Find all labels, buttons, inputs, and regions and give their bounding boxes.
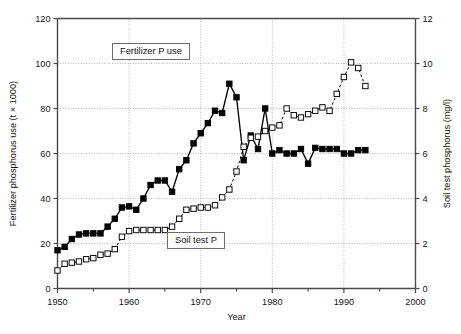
ytick-label-left: 120 <box>35 14 50 24</box>
ytick-label-left: 80 <box>40 104 50 114</box>
ytick-label-left: 40 <box>40 194 50 204</box>
data-point <box>177 216 182 221</box>
data-point <box>98 231 103 236</box>
data-point <box>320 105 325 110</box>
data-point <box>191 206 196 211</box>
ytick-label-right: 6 <box>423 149 428 159</box>
data-point <box>198 205 203 210</box>
data-point <box>83 231 88 236</box>
data-point <box>248 135 253 140</box>
data-point <box>334 146 339 151</box>
data-point <box>169 224 174 229</box>
data-point <box>62 244 67 249</box>
data-point <box>298 146 303 151</box>
data-point <box>105 224 110 229</box>
data-point <box>348 151 353 156</box>
ytick-label-left: 60 <box>40 149 50 159</box>
data-point <box>119 234 124 239</box>
data-point <box>313 108 318 113</box>
data-point <box>291 113 296 118</box>
data-point <box>148 227 153 232</box>
data-point <box>305 111 310 116</box>
data-point <box>291 151 296 156</box>
data-point <box>327 146 332 151</box>
data-point <box>255 134 260 139</box>
data-point <box>277 147 282 152</box>
ytick-label-right: 10 <box>423 59 433 69</box>
data-point <box>270 125 275 130</box>
data-point <box>91 255 96 260</box>
data-point <box>69 260 74 265</box>
data-point <box>262 106 267 111</box>
chart-figure: 0204060801001200246810121950196019701980… <box>0 0 461 334</box>
data-point <box>234 95 239 100</box>
data-point <box>76 232 81 237</box>
data-point <box>212 203 217 208</box>
ytick-label-left: 100 <box>35 59 50 69</box>
data-point <box>148 182 153 187</box>
data-point <box>348 60 353 65</box>
data-point <box>305 161 310 166</box>
xtick-label: 1960 <box>119 297 139 307</box>
data-point <box>262 128 267 133</box>
xtick-label: 1980 <box>262 297 282 307</box>
data-point <box>277 123 282 128</box>
annotation-fertilizer-p-use: Fertilizer P use <box>112 43 190 60</box>
data-point <box>98 252 103 257</box>
data-point <box>76 259 81 264</box>
data-point <box>219 195 224 200</box>
y-axis-title-right: Soil test phosphorus (mg/l) <box>442 99 452 208</box>
data-point <box>205 205 210 210</box>
data-point <box>205 120 210 125</box>
data-point <box>227 81 232 86</box>
ytick-label-right: 2 <box>423 239 428 249</box>
data-point <box>169 189 174 194</box>
data-point <box>112 216 117 221</box>
data-point <box>141 196 146 201</box>
data-point <box>55 248 60 253</box>
data-point <box>234 169 239 174</box>
chart-canvas: 0204060801001200246810121950196019701980… <box>0 0 461 334</box>
data-point <box>184 158 189 163</box>
data-point <box>126 204 131 209</box>
x-axis-title: Year <box>227 312 246 322</box>
data-point <box>141 227 146 232</box>
data-point <box>255 146 260 151</box>
data-point <box>327 108 332 113</box>
data-point <box>198 131 203 136</box>
data-point <box>83 257 88 262</box>
data-point <box>241 144 246 149</box>
data-point <box>184 207 189 212</box>
xtick-label: 1950 <box>47 297 67 307</box>
data-point <box>320 146 325 151</box>
data-point <box>341 74 346 79</box>
data-point <box>91 231 96 236</box>
data-point <box>55 268 60 273</box>
data-point <box>177 167 182 172</box>
data-point <box>227 187 232 192</box>
data-point <box>313 145 318 150</box>
data-point <box>134 207 139 212</box>
ytick-label-left: 20 <box>40 239 50 249</box>
data-point <box>270 151 275 156</box>
data-point <box>212 108 217 113</box>
data-point <box>155 227 160 232</box>
data-point <box>162 178 167 183</box>
data-point <box>62 261 67 266</box>
xtick-label: 2000 <box>405 297 425 307</box>
data-point <box>241 158 246 163</box>
data-point <box>341 151 346 156</box>
tick-labels: 0204060801001200246810121950196019701980… <box>35 14 433 307</box>
ytick-label-right: 12 <box>423 14 433 24</box>
data-point <box>298 115 303 120</box>
xtick-label: 1970 <box>190 297 210 307</box>
data-point <box>155 178 160 183</box>
data-point <box>356 147 361 152</box>
ytick-label-right: 8 <box>423 104 428 114</box>
data-point <box>356 65 361 70</box>
ytick-label-right: 4 <box>423 194 428 204</box>
data-point <box>105 251 110 256</box>
data-point <box>134 227 139 232</box>
data-point <box>284 106 289 111</box>
ytick-label-left: 0 <box>45 284 50 294</box>
